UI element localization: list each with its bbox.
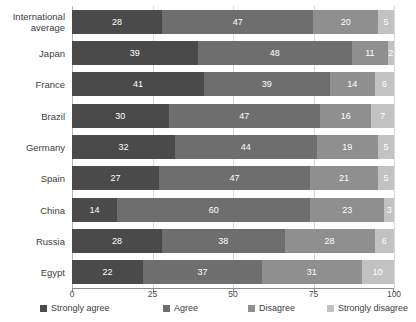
category-label: Brazil xyxy=(0,111,65,122)
bar-row: 4139146 xyxy=(72,72,394,96)
bar-segment: 19 xyxy=(317,135,378,159)
bar-segment-value: 14 xyxy=(90,206,100,215)
bar-segment-value: 47 xyxy=(239,112,249,121)
legend-swatch-icon xyxy=(163,305,170,312)
legend-swatch-icon xyxy=(327,305,334,312)
bar-row: 3948112 xyxy=(72,41,394,65)
stacked-bar-chart: InternationalaverageJapanFranceBrazilGer… xyxy=(0,0,416,322)
bar-segment: 27 xyxy=(72,166,159,190)
bar-segment: 41 xyxy=(72,72,204,96)
bar-segment: 28 xyxy=(285,229,375,253)
bar-segment-value: 37 xyxy=(197,268,207,277)
category-label: Spain xyxy=(0,173,65,184)
bar-segment-value: 19 xyxy=(342,143,352,152)
legend-item[interactable]: Agree xyxy=(163,303,198,313)
bar-segment: 44 xyxy=(175,135,317,159)
bar-segment-value: 16 xyxy=(341,112,351,121)
legend-swatch-icon xyxy=(40,305,47,312)
bar-segment: 60 xyxy=(117,198,310,222)
legend-label: Strongly disagree xyxy=(338,303,408,313)
bar-segment-value: 48 xyxy=(270,49,280,58)
bar-segment-value: 47 xyxy=(233,18,243,27)
bar-segment: 11 xyxy=(352,41,387,65)
bar-segment: 31 xyxy=(262,260,362,284)
bar-segment-value: 22 xyxy=(102,268,112,277)
category-label: Egypt xyxy=(0,267,65,278)
x-axis-tick-label: 100 xyxy=(387,290,401,299)
bar-segment-value: 47 xyxy=(230,174,240,183)
bar-segment-value: 3 xyxy=(387,206,392,215)
category-label: China xyxy=(0,205,65,216)
bar-segment-value: 20 xyxy=(341,18,351,27)
legend-item[interactable]: Strongly disagree xyxy=(327,303,408,313)
bar-row: 22373110 xyxy=(72,260,394,284)
bar-segment: 37 xyxy=(143,260,262,284)
legend-label: Agree xyxy=(174,303,198,313)
bar-segment: 14 xyxy=(330,72,375,96)
bar-segment-value: 5 xyxy=(383,174,388,183)
category-label: France xyxy=(0,79,65,90)
bar-segment-value: 7 xyxy=(380,112,385,121)
bar-segment: 38 xyxy=(162,229,284,253)
bar-segment: 22 xyxy=(72,260,143,284)
bar-segment: 7 xyxy=(371,104,394,128)
bar-row: 3244195 xyxy=(72,135,394,159)
bar-segment-value: 21 xyxy=(339,174,349,183)
bar-segment-value: 28 xyxy=(112,237,122,246)
watermark-url: https://hss.g118.csa-research.com/report… xyxy=(410,0,415,56)
bar-row: 2747215 xyxy=(72,166,394,190)
gridline xyxy=(394,6,395,288)
plot-area: 2847205394811241391463047167324419527472… xyxy=(72,6,394,288)
bar-segment-value: 32 xyxy=(119,143,129,152)
legend-item[interactable]: Strongly agree xyxy=(40,303,110,313)
bar-segment-value: 14 xyxy=(347,80,357,89)
bar-segment: 10 xyxy=(362,260,394,284)
category-label: Japan xyxy=(0,48,65,59)
bar-segment-value: 38 xyxy=(218,237,228,246)
x-axis-tick-label: 0 xyxy=(70,290,75,299)
bar-segment-value: 2 xyxy=(388,49,393,58)
legend-item[interactable]: Disagree xyxy=(248,303,295,313)
bar-segment: 16 xyxy=(320,104,372,128)
bar-segment: 48 xyxy=(198,41,353,65)
bar-segment-value: 31 xyxy=(307,268,317,277)
bar-segment-value: 6 xyxy=(382,80,387,89)
bar-row: 2847205 xyxy=(72,10,394,34)
x-axis-tick-label: 50 xyxy=(228,290,237,299)
bar-segment: 6 xyxy=(375,72,394,96)
bar-segment-value: 28 xyxy=(325,237,335,246)
bar-segment: 39 xyxy=(72,41,198,65)
category-label: Germany xyxy=(0,142,65,153)
bar-segment-value: 6 xyxy=(382,237,387,246)
bar-segment-value: 44 xyxy=(241,143,251,152)
bar-segment: 47 xyxy=(162,10,313,34)
bar-segment: 28 xyxy=(72,229,162,253)
x-axis-tick-label: 75 xyxy=(309,290,318,299)
legend-swatch-icon xyxy=(248,305,255,312)
legend-label: Strongly agree xyxy=(51,303,110,313)
bar-segment-value: 60 xyxy=(209,206,219,215)
bar-segment-value: 28 xyxy=(112,18,122,27)
bar-segment: 2 xyxy=(388,41,394,65)
bar-segment-value: 39 xyxy=(130,49,140,58)
bar-segment-value: 10 xyxy=(373,268,383,277)
category-label: Russia xyxy=(0,236,65,247)
bar-segment: 14 xyxy=(72,198,117,222)
bar-segment: 3 xyxy=(384,198,394,222)
bar-segment: 47 xyxy=(159,166,310,190)
legend-label: Disagree xyxy=(259,303,295,313)
bar-segment: 47 xyxy=(169,104,320,128)
bar-row: 2838286 xyxy=(72,229,394,253)
bar-segment: 21 xyxy=(310,166,378,190)
bar-segment-value: 27 xyxy=(110,174,120,183)
bar-segment: 6 xyxy=(375,229,394,253)
bar-segment-value: 41 xyxy=(133,80,143,89)
x-axis-tick-label: 25 xyxy=(148,290,157,299)
bar-segment-value: 5 xyxy=(383,18,388,27)
bar-segment-value: 30 xyxy=(115,112,125,121)
bar-segment: 5 xyxy=(378,166,394,190)
bar-segment-value: 11 xyxy=(365,49,374,58)
chart-legend: Strongly agreeAgreeDisagreeStrongly disa… xyxy=(40,303,400,317)
bar-segment-value: 5 xyxy=(383,143,388,152)
bar-segment: 5 xyxy=(378,10,394,34)
